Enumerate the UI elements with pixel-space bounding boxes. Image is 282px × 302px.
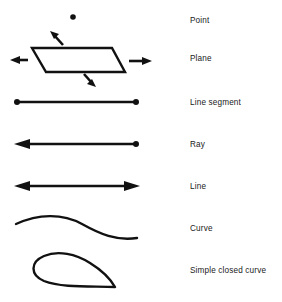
plane-parallelogram — [32, 48, 125, 72]
label-simple-closed-curve: Simple closed curve — [190, 266, 266, 276]
label-ray: Ray — [190, 140, 205, 150]
simple-closed-curve-path — [34, 253, 116, 287]
line-arrowhead-left — [14, 181, 30, 191]
curve-path — [16, 216, 137, 239]
ray-arrowhead-left — [14, 139, 30, 149]
figure-ray — [14, 139, 139, 149]
label-plane: Plane — [190, 54, 212, 64]
figure-plane — [10, 31, 152, 87]
figure-curve — [16, 216, 137, 239]
figure-point — [70, 14, 76, 20]
label-line-segment: Line segment — [190, 98, 241, 108]
ray-endpoint-right — [133, 141, 139, 147]
figure-line-segment — [14, 99, 139, 105]
figure-simple-closed-curve — [34, 253, 116, 287]
point-dot — [70, 14, 76, 20]
plane-arrow-top — [50, 31, 63, 45]
label-curve: Curve — [190, 224, 213, 234]
line-segment-endpoint-left — [14, 99, 20, 105]
line-arrowhead-right — [124, 181, 140, 191]
figure-line — [14, 181, 140, 191]
line-segment-endpoint-right — [133, 99, 139, 105]
figure-layer — [0, 0, 282, 302]
geometry-figures-diagram: Point Plane Line segment Ray Line Curve … — [0, 0, 282, 302]
plane-arrow-bottom — [84, 74, 96, 87]
label-line: Line — [190, 182, 206, 192]
plane-arrow-left — [10, 56, 28, 64]
plane-arrow-right — [129, 57, 152, 65]
label-point: Point — [190, 16, 209, 26]
